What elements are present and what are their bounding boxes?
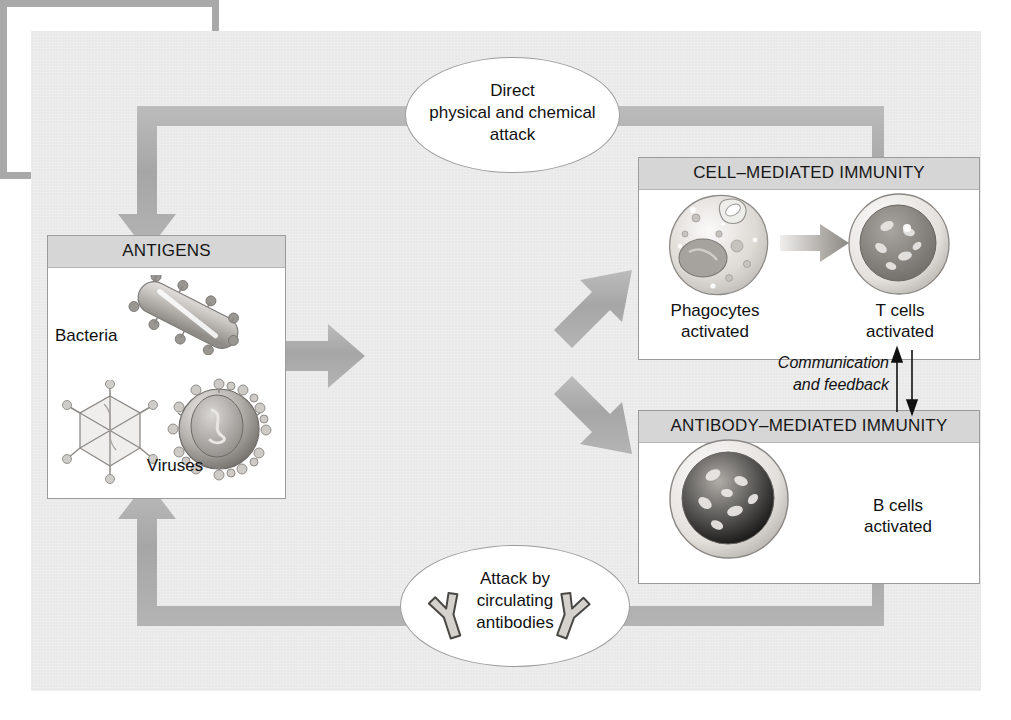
diagram-canvas: ANTIGENS CELL–MEDIATED IMMUNITY ANTIBODY… bbox=[0, 0, 1011, 720]
feedback-arrows bbox=[0, 0, 1011, 720]
feedback-arrow-up bbox=[892, 348, 902, 412]
feedback-arrow-down bbox=[907, 350, 917, 414]
